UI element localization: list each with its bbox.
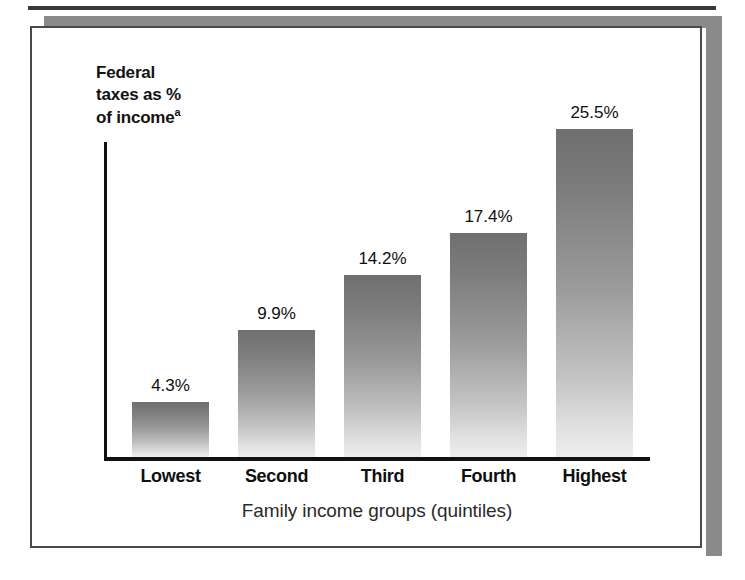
category-axis-labels: Lowest Second Third Fourth Highest bbox=[104, 466, 650, 494]
plot-area: 4.3% 9.9% 14.2% 17.4% 25.5% bbox=[104, 110, 650, 457]
category-label-highest: Highest bbox=[556, 466, 633, 487]
bar-chart: Federal taxes as % of incomea 4.3% 9.9% … bbox=[0, 0, 745, 580]
bar bbox=[132, 402, 209, 457]
category-label-fourth: Fourth bbox=[450, 466, 527, 487]
category-label-third: Third bbox=[344, 466, 421, 487]
bar-value-label: 17.4% bbox=[464, 207, 512, 227]
bar-value-label: 9.9% bbox=[257, 304, 296, 324]
bar-value-label: 25.5% bbox=[570, 103, 618, 123]
category-label-lowest: Lowest bbox=[132, 466, 209, 487]
bar bbox=[238, 330, 315, 457]
category-label-second: Second bbox=[238, 466, 315, 487]
bar bbox=[344, 275, 421, 457]
x-axis-line bbox=[104, 457, 650, 461]
bar bbox=[556, 129, 633, 457]
bar-value-label: 14.2% bbox=[358, 249, 406, 269]
bar-value-label: 4.3% bbox=[151, 376, 190, 396]
x-axis-title: Family income groups (quintiles) bbox=[104, 500, 650, 522]
bar bbox=[450, 233, 527, 457]
